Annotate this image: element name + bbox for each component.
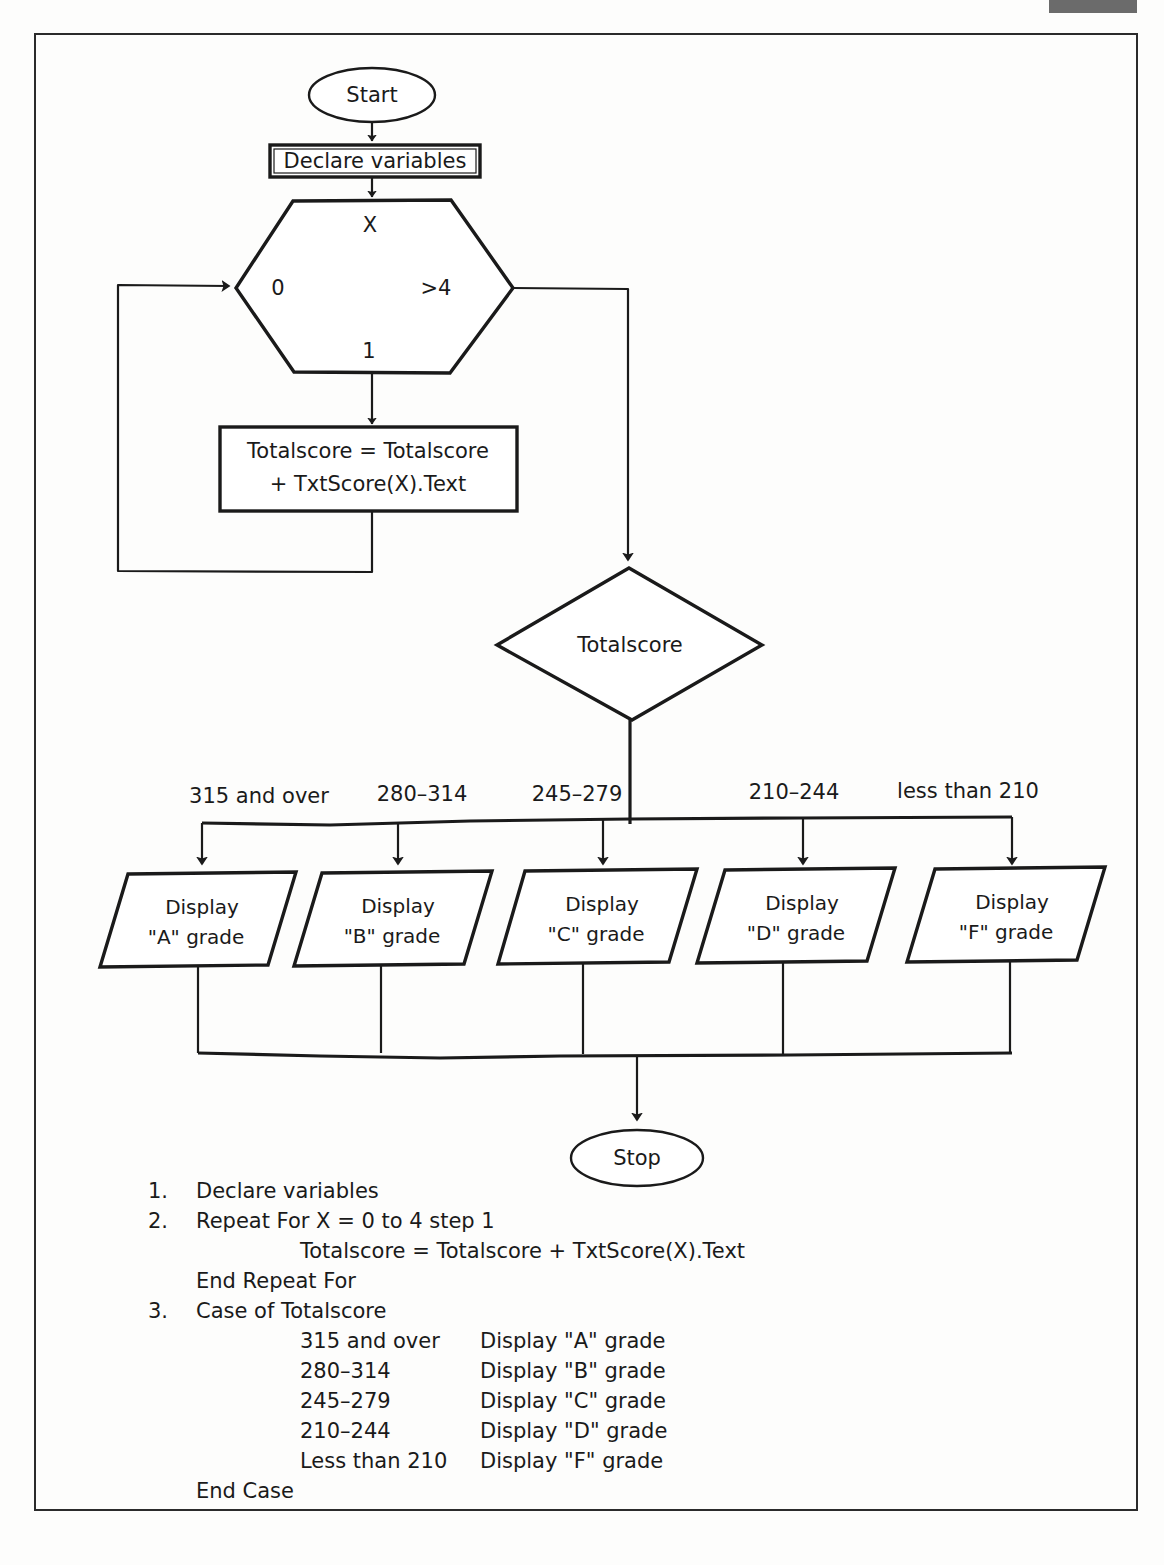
end-case-text: End Case xyxy=(196,1476,294,1506)
case-condition-1: 280–314 xyxy=(300,1356,480,1386)
display-parallelogram-1 xyxy=(294,871,492,966)
case-action-4: Display "F" grade xyxy=(480,1446,663,1476)
display-action-0-line2: "A" grade xyxy=(148,925,245,949)
branch-condition-0: 315 and over xyxy=(189,784,329,808)
pseudocode-step-1: 1. Declare variables xyxy=(148,1176,1028,1206)
loop-to-label: >4 xyxy=(421,276,452,300)
display-action-1-line1: Display xyxy=(361,894,435,918)
branch-condition-4: less than 210 xyxy=(897,779,1039,803)
case-condition-3: 210–244 xyxy=(300,1416,480,1446)
step-1-text: Declare variables xyxy=(196,1176,379,1206)
display-action-0-line1: Display xyxy=(165,895,239,919)
process-line-1: Totalscore = Totalscore xyxy=(246,439,489,463)
display-parallelogram-4 xyxy=(907,867,1105,962)
pseudocode-end-case-row: End Case xyxy=(148,1476,1028,1506)
display-action-4-line1: Display xyxy=(975,890,1049,914)
step-1-number: 1. xyxy=(148,1176,196,1206)
display-action-2-line1: Display xyxy=(565,892,639,916)
merge-bar xyxy=(198,1053,1012,1058)
display-action-4-line2: "F" grade xyxy=(959,920,1053,944)
pseudocode-step-2-body-row: Totalscore = Totalscore + TxtScore(X).Te… xyxy=(148,1236,1028,1266)
case-row-2: 245–279 Display "C" grade xyxy=(148,1386,1028,1416)
pseudocode-step-2: 2. Repeat For X = 0 to 4 step 1 xyxy=(148,1206,1028,1236)
loop-variable-label: X xyxy=(363,213,377,237)
step-2-number: 2. xyxy=(148,1206,196,1236)
case-condition-4: Less than 210 xyxy=(300,1446,480,1476)
case-row-3: 210–244 Display "D" grade xyxy=(148,1416,1028,1446)
step-2-body-text: Totalscore = Totalscore + TxtScore(X).Te… xyxy=(300,1236,745,1266)
branch-condition-1: 280–314 xyxy=(377,782,468,806)
decision-label: Totalscore xyxy=(576,633,682,657)
display-action-3-line2: "D" grade xyxy=(747,921,845,945)
branch-distribution-bar xyxy=(202,817,1012,825)
case-action-2: Display "C" grade xyxy=(480,1386,666,1416)
case-action-1: Display "B" grade xyxy=(480,1356,666,1386)
case-row-0: 315 and over Display "A" grade xyxy=(148,1326,1028,1356)
branch-condition-2: 245–279 xyxy=(532,782,623,806)
step-3-text: Case of Totalscore xyxy=(196,1296,386,1326)
display-action-1-line2: "B" grade xyxy=(344,924,441,948)
branch-condition-3: 210–244 xyxy=(749,780,840,804)
edge-loop-exit-to-decision xyxy=(513,288,628,560)
pseudocode-step-3: 3. Case of Totalscore xyxy=(148,1296,1028,1326)
start-label: Start xyxy=(346,83,397,107)
case-row-1: 280–314 Display "B" grade xyxy=(148,1356,1028,1386)
pseudocode-end-repeat-row: End Repeat For xyxy=(148,1266,1028,1296)
stop-label: Stop xyxy=(613,1146,661,1170)
display-parallelogram-0 xyxy=(100,872,296,967)
case-action-3: Display "D" grade xyxy=(480,1416,667,1446)
display-action-3-line1: Display xyxy=(765,891,839,915)
loop-step-label: 1 xyxy=(362,339,375,363)
end-repeat-text: End Repeat For xyxy=(196,1266,356,1296)
case-action-0: Display "A" grade xyxy=(480,1326,666,1356)
case-row-4: Less than 210 Display "F" grade xyxy=(148,1446,1028,1476)
display-parallelogram-2 xyxy=(498,869,697,964)
case-condition-2: 245–279 xyxy=(300,1386,480,1416)
display-parallelogram-3 xyxy=(697,868,895,963)
step-2-text: Repeat For X = 0 to 4 step 1 xyxy=(196,1206,495,1236)
pseudocode-listing: 1. Declare variables 2. Repeat For X = 0… xyxy=(148,1176,1028,1506)
case-condition-0: 315 and over xyxy=(300,1326,480,1356)
step-3-number: 3. xyxy=(148,1296,196,1326)
process-line-2: + TxtScore(X).Text xyxy=(270,472,467,496)
declare-variables-label: Declare variables xyxy=(284,149,467,173)
page-canvas: Start Declare variables X 0 >4 1 Totalsc… xyxy=(0,0,1164,1565)
display-action-2-line2: "C" grade xyxy=(548,922,645,946)
loop-from-label: 0 xyxy=(271,276,284,300)
